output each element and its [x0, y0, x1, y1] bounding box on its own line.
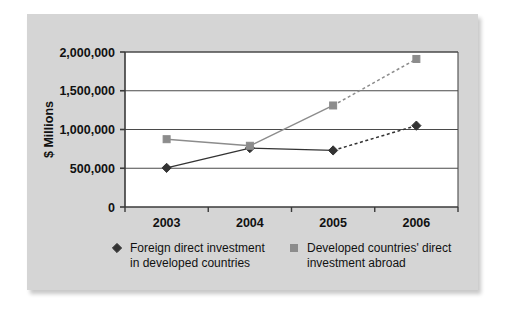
line-chart: 0500,0001,000,0001,500,0002,000,000$ Mil…: [27, 14, 478, 290]
legend-marker: [112, 243, 121, 252]
y-axis-title: $ Millions: [42, 101, 56, 158]
y-tick-label: 1,500,000: [59, 84, 115, 98]
chart-panel: 0500,0001,000,0001,500,0002,000,000$ Mil…: [27, 14, 478, 290]
x-tick-label: 2004: [236, 216, 264, 230]
legend-label-line2: in developed countries: [130, 256, 250, 270]
figure-container: 0500,0001,000,0001,500,0002,000,000$ Mil…: [0, 0, 506, 312]
x-tick-label: 2005: [319, 216, 347, 230]
y-tick-label: 1,000,000: [59, 123, 115, 137]
legend-label-line1: Foreign direct investment: [130, 241, 265, 255]
legend-label-line1: Developed countries' direct: [307, 241, 452, 255]
y-tick-label: 2,000,000: [59, 46, 115, 60]
legend-item-1[interactable]: Foreign direct investmentin developed co…: [112, 241, 265, 270]
x-tick-label: 2006: [402, 216, 430, 230]
x-tick-label: 2003: [153, 216, 181, 230]
data-point-marker: [413, 55, 420, 62]
legend-label-line2: investment abroad: [307, 256, 406, 270]
legend-item-2[interactable]: Developed countries' directinvestment ab…: [291, 241, 453, 270]
data-point-marker: [246, 142, 253, 149]
y-tick-label: 0: [108, 201, 115, 215]
legend-marker: [291, 245, 298, 252]
y-tick-label: 500,000: [70, 162, 115, 176]
data-point-marker: [163, 136, 170, 143]
data-point-marker: [330, 102, 337, 109]
